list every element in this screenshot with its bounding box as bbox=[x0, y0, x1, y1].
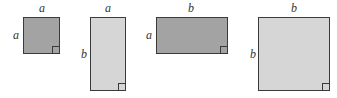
right-angle-icon bbox=[220, 46, 227, 53]
shape1-side-label: a bbox=[13, 29, 19, 41]
rect-b-by-a bbox=[156, 17, 228, 54]
right-angle-icon bbox=[52, 46, 59, 53]
shape3-top-label: b bbox=[188, 2, 194, 14]
square-a bbox=[23, 17, 60, 54]
shape2-top-label: a bbox=[105, 2, 111, 14]
shape1-top-label: a bbox=[39, 2, 45, 14]
right-angle-icon bbox=[322, 83, 329, 90]
shape2-side-label: b bbox=[81, 48, 87, 60]
square-b bbox=[258, 17, 330, 91]
right-angle-icon bbox=[118, 83, 125, 90]
shape3-side-label: a bbox=[146, 29, 152, 41]
shape4-top-label: b bbox=[291, 2, 297, 14]
shape4-side-label: b bbox=[250, 48, 256, 60]
rect-a-by-b bbox=[90, 17, 126, 91]
